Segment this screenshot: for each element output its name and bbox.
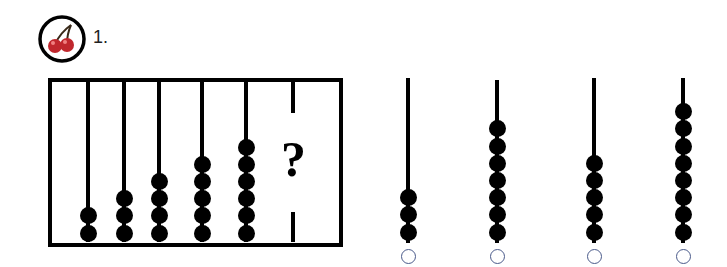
abacus-bead — [194, 156, 211, 173]
option-bead — [489, 120, 506, 137]
option-bead — [675, 120, 692, 137]
question-number: 1. — [93, 27, 108, 48]
abacus-bead — [116, 190, 133, 207]
option-bead — [489, 138, 506, 155]
option-bead — [400, 206, 417, 223]
abacus-bead — [238, 173, 255, 190]
option-bead — [675, 172, 692, 189]
question-mark: ? — [281, 130, 306, 188]
option-bead — [586, 172, 603, 189]
abacus-bead — [116, 207, 133, 224]
option-radio-4[interactable] — [676, 249, 691, 264]
abacus-bead — [194, 207, 211, 224]
option-bead — [675, 224, 692, 241]
option-bead — [489, 189, 506, 206]
abacus-bead — [151, 190, 168, 207]
option-bead — [489, 172, 506, 189]
option-radio-3[interactable] — [587, 249, 602, 264]
option-bead — [675, 155, 692, 172]
abacus-bead — [238, 156, 255, 173]
option-bead — [400, 189, 417, 206]
option-radio-1[interactable] — [401, 249, 416, 264]
option-bead — [586, 155, 603, 172]
option-bead — [586, 206, 603, 223]
cherry-badge — [37, 14, 87, 64]
abacus-bead — [80, 207, 97, 224]
abacus-bead — [151, 225, 168, 242]
option-bead — [489, 155, 506, 172]
missing-rod-segment — [291, 82, 295, 113]
cherry-icon — [37, 14, 87, 64]
option-bead — [586, 224, 603, 241]
abacus-bead — [151, 207, 168, 224]
abacus-bead — [238, 225, 255, 242]
abacus-bead — [238, 139, 255, 156]
option-bead — [489, 206, 506, 223]
abacus-bead — [194, 190, 211, 207]
abacus-bead — [80, 225, 97, 242]
abacus-bead — [238, 207, 255, 224]
missing-rod-segment — [291, 212, 295, 242]
option-bead — [489, 224, 506, 241]
option-bead — [675, 138, 692, 155]
abacus-bead — [194, 173, 211, 190]
option-radio-2[interactable] — [490, 249, 505, 264]
option-bead — [675, 189, 692, 206]
abacus-bead — [194, 225, 211, 242]
abacus-bead — [116, 225, 133, 242]
option-bead — [586, 189, 603, 206]
abacus-bead — [151, 173, 168, 190]
option-bead — [675, 206, 692, 223]
option-bead — [675, 103, 692, 120]
option-bead — [400, 224, 417, 241]
abacus-bead — [238, 190, 255, 207]
